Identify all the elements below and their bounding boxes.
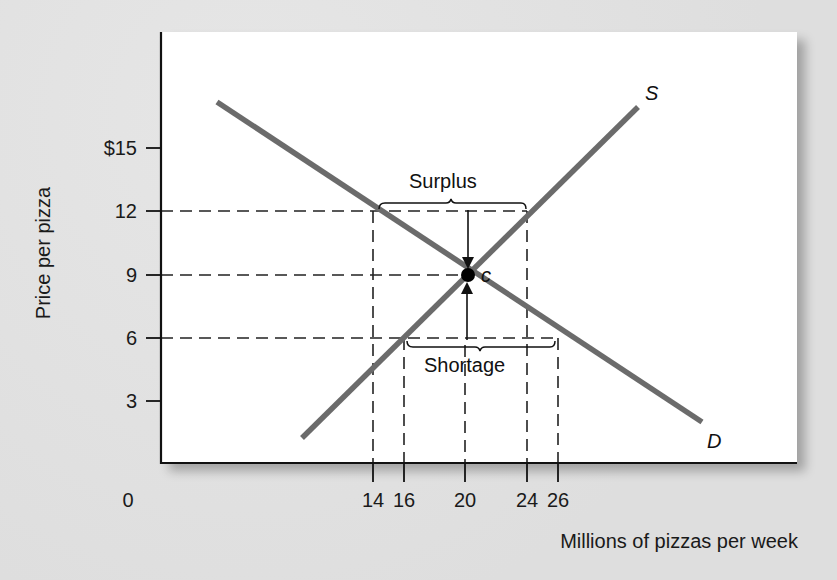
reference-lines (161, 211, 558, 463)
supply-demand-chart: c S D Surplus Shortage $15 12 9 6 3 0 14… (0, 0, 837, 580)
y-tick-label-12: 12 (115, 200, 137, 222)
shortage-brace (407, 341, 555, 351)
equilibrium-point (461, 268, 475, 282)
y-tick-label-3: 3 (126, 390, 137, 412)
supply-label: S (645, 82, 659, 104)
x-tick-label-24: 24 (516, 489, 538, 511)
equilibrium-label: c (481, 264, 491, 286)
surplus-brace (379, 199, 526, 209)
surplus-label: Surplus (409, 170, 477, 192)
x-axis-title: Millions of pizzas per week (560, 530, 799, 552)
x-tick-label-20: 20 (454, 489, 476, 511)
demand-label: D (707, 430, 721, 452)
y-tick-label-15: $15 (104, 137, 137, 159)
surplus-arrow (462, 210, 474, 269)
origin-label: 0 (122, 489, 133, 511)
y-tick-label-9: 9 (126, 264, 137, 286)
x-tick-label-14: 14 (362, 489, 384, 511)
shortage-label: Shortage (424, 354, 505, 376)
x-tick-label-26: 26 (547, 489, 569, 511)
y-tick-label-6: 6 (126, 327, 137, 349)
arrow-up-icon (461, 282, 473, 294)
x-tick-label-16: 16 (393, 489, 415, 511)
y-axis-title: Price per pizza (32, 186, 54, 319)
shortage-arrow (461, 282, 473, 340)
